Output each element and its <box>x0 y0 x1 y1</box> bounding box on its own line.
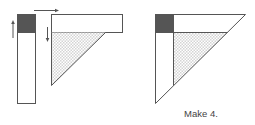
caption: Make 4. <box>178 108 224 119</box>
exploded-assembly <box>11 9 122 104</box>
dark-square <box>156 15 174 33</box>
horizontal-strip <box>52 15 123 33</box>
diagram-canvas <box>0 0 255 125</box>
arrow-down-icon <box>46 27 50 42</box>
arrow-up-icon <box>11 20 15 38</box>
assembled-triangle <box>156 15 246 104</box>
arrow-right-icon <box>34 9 59 13</box>
dark-square <box>18 15 36 33</box>
